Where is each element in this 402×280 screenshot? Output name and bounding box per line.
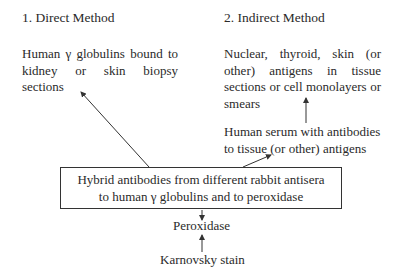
connector-arrows xyxy=(0,0,402,280)
arrow-box-to-serum xyxy=(243,155,271,167)
arrow-box-to-direct xyxy=(81,92,149,167)
